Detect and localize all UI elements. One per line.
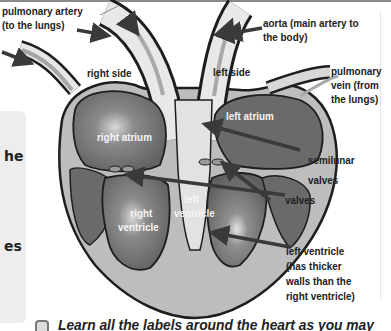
label-aorta: aorta (main artery to the body) bbox=[263, 16, 359, 44]
label-left-atrium: left atrium bbox=[226, 109, 274, 123]
label-right-atrium: right atrium bbox=[97, 130, 152, 144]
label-pulmonary-artery: pulmonary artery (to the lungs) bbox=[2, 4, 83, 32]
label-line: the body) bbox=[263, 30, 359, 44]
note-icon bbox=[35, 320, 49, 331]
label-pulmonary-vein: pulmonary vein (from the lungs) bbox=[331, 64, 382, 106]
label-valves: valves bbox=[285, 193, 315, 207]
label-line: walls than the bbox=[286, 274, 355, 289]
label-line: aorta (main artery to bbox=[263, 16, 359, 30]
label-line: pulmonary bbox=[331, 64, 382, 78]
label-left-ventricle-note: left ventricle (has thicker walls than t… bbox=[286, 244, 355, 304]
label-line: right bbox=[118, 206, 159, 220]
label-line: left ventricle bbox=[286, 244, 355, 259]
label-line: left bbox=[174, 192, 215, 206]
label-right-side: right side bbox=[87, 66, 132, 80]
label-line: (to the lungs) bbox=[2, 18, 83, 32]
caption-text: Learn all the labels around the heart as… bbox=[58, 316, 391, 331]
label-line: pulmonary artery bbox=[2, 4, 83, 18]
label-line: right ventricle) bbox=[286, 289, 355, 304]
label-line: vein (from bbox=[331, 78, 382, 92]
label-line: (has thicker bbox=[286, 259, 355, 274]
label-line: the lungs) bbox=[331, 92, 382, 106]
label-line: ventricle bbox=[118, 220, 159, 234]
label-line: valves bbox=[308, 173, 355, 187]
label-left-side: left side bbox=[213, 65, 250, 79]
label-line: semilunar bbox=[308, 153, 355, 167]
label-line: ventricle bbox=[174, 206, 215, 220]
label-right-ventricle: right ventricle bbox=[118, 206, 159, 234]
label-semilunar-valves: semilunar valves bbox=[308, 153, 355, 187]
label-left-ventricle: left ventricle bbox=[174, 192, 215, 220]
